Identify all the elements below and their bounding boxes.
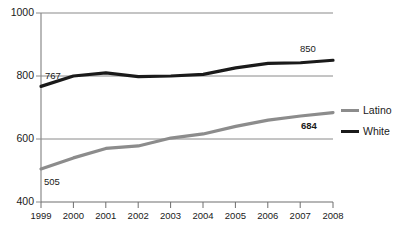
series-line-latino: [41, 113, 333, 169]
x-axis: [41, 202, 333, 208]
annotation-latino-start: 505: [44, 176, 60, 187]
x-tick-label-2007: 2007: [283, 211, 317, 221]
x-tick-label-1999: 1999: [24, 211, 58, 221]
y-tick-label-800: 800: [0, 70, 34, 81]
y-tick-label-600: 600: [0, 133, 34, 144]
annotation-white-end: 850: [300, 43, 316, 54]
x-tick-label-2000: 2000: [56, 211, 90, 221]
x-tick-label-2003: 2003: [154, 211, 188, 221]
legend-label-white: White: [363, 126, 390, 137]
x-tick-label-2002: 2002: [121, 211, 155, 221]
annotation-latino-end: 684: [301, 120, 317, 131]
y-axis: [36, 13, 41, 202]
chart-plot-area: [0, 0, 394, 236]
x-tick-label-2005: 2005: [218, 211, 252, 221]
series-line-white: [41, 60, 333, 86]
line-chart: 1000 800 600 400 1999 2000 2001 2002 200…: [0, 0, 394, 236]
legend-swatch-latino: [341, 109, 359, 112]
annotation-white-start: 767: [45, 70, 61, 81]
y-tick-label-400: 400: [0, 196, 34, 207]
y-tick-label-1000: 1000: [0, 7, 34, 18]
x-tick-label-2008: 2008: [316, 211, 350, 221]
legend-item-latino[interactable]: Latino: [341, 105, 392, 116]
x-tick-label-2004: 2004: [186, 211, 220, 221]
x-tick-label-2006: 2006: [251, 211, 285, 221]
legend-item-white[interactable]: White: [341, 126, 390, 137]
legend-label-latino: Latino: [363, 105, 392, 116]
legend-swatch-white: [341, 130, 359, 133]
x-tick-label-2001: 2001: [89, 211, 123, 221]
